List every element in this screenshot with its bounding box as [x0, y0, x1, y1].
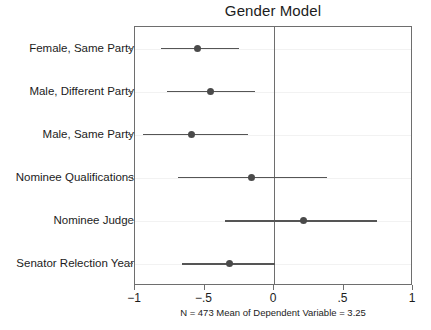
plot-area — [134, 26, 412, 285]
estimate-row — [135, 215, 413, 227]
y-axis-tick — [128, 48, 133, 49]
x-axis: −1−.50.51 — [134, 285, 412, 325]
chart-caption: N = 473 Mean of Dependent Variable = 3.2… — [134, 307, 412, 318]
estimate-row — [135, 86, 413, 98]
y-axis-label: Male, Different Party — [2, 85, 134, 97]
y-axis-tick — [128, 220, 133, 221]
x-axis-tick — [273, 285, 274, 290]
estimate-point-marker — [207, 88, 214, 95]
x-axis-tick — [204, 285, 205, 290]
y-axis-label: Senator Relection Year — [2, 257, 134, 269]
estimate-row — [135, 258, 413, 270]
confidence-interval-bar — [143, 134, 247, 135]
x-axis-tick-label: 1 — [409, 291, 416, 305]
estimate-point-marker — [248, 174, 255, 181]
x-axis-tick — [134, 285, 135, 290]
estimate-point-marker — [300, 217, 307, 224]
estimate-row — [135, 172, 413, 184]
estimate-point-marker — [226, 260, 233, 267]
x-axis-tick-label: .5 — [337, 291, 347, 305]
y-axis: Female, Same PartyMale, Different PartyM… — [0, 26, 134, 285]
zero-reference-line — [274, 27, 275, 284]
y-axis-tick — [128, 134, 133, 135]
x-axis-tick-label: −.5 — [195, 291, 212, 305]
y-axis-label: Nominee Judge — [2, 214, 134, 226]
y-axis-label: Male, Same Party — [2, 128, 134, 140]
y-axis-label: Female, Same Party — [2, 42, 134, 54]
estimate-point-marker — [194, 45, 201, 52]
coefficient-plot-figure: Gender Model Female, Same PartyMale, Dif… — [0, 0, 431, 330]
x-axis-tick — [343, 285, 344, 290]
y-axis-label: Nominee Qualifications — [2, 171, 134, 183]
estimate-row — [135, 129, 413, 141]
x-axis-tick — [412, 285, 413, 290]
estimate-row — [135, 43, 413, 55]
y-axis-tick — [128, 177, 133, 178]
estimate-point-marker — [188, 131, 195, 138]
chart-title: Gender Model — [134, 2, 412, 19]
y-axis-tick — [128, 91, 133, 92]
y-axis-tick — [128, 263, 133, 264]
x-axis-tick-label: −1 — [127, 291, 141, 305]
x-axis-tick-label: 0 — [270, 291, 277, 305]
